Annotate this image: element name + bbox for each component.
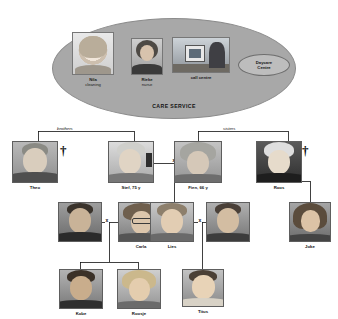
- kobe-photo: [59, 269, 103, 309]
- person-node-lies-partner[interactable]: [206, 202, 250, 244]
- person-node-theo[interactable]: Theo: [12, 141, 58, 190]
- face-shape: [129, 278, 150, 301]
- lies-name: Lies: [150, 244, 194, 249]
- daycare-centre-label: Daycare Centre: [256, 60, 272, 70]
- body-shape: [117, 301, 161, 308]
- face-shape: [301, 210, 320, 232]
- nila-role: cleaning: [72, 82, 114, 87]
- shoulders-shape: [75, 65, 111, 74]
- lies-photo: [150, 202, 194, 242]
- union-mark-carla: x: [105, 218, 109, 223]
- joke-photo: [289, 202, 331, 242]
- care-member-rieke[interactable]: Rieke nurse: [131, 38, 163, 87]
- person-node-joke[interactable]: Joke: [289, 202, 331, 249]
- daycare-line-2: Centre: [257, 65, 270, 70]
- deceased-cross-icon-theo: †: [60, 144, 67, 157]
- face-shape: [217, 208, 239, 233]
- rieke-name: Rieke: [141, 77, 152, 82]
- body-shape: [150, 233, 194, 241]
- body-shape: [256, 173, 302, 182]
- lies-partner-photo: [206, 202, 250, 242]
- daycare-centre-node[interactable]: Daycare Centre: [238, 54, 290, 76]
- fien-photo: [174, 141, 222, 183]
- face-shape: [187, 151, 209, 175]
- care-member-nila[interactable]: Nila cleaning: [72, 32, 114, 87]
- call-centre-photo: [172, 37, 230, 73]
- face-shape: [69, 208, 91, 233]
- roos-photo: [256, 141, 302, 183]
- person-node-lies[interactable]: Lies: [150, 202, 194, 249]
- face-shape: [268, 150, 290, 174]
- nila-name: Nila: [89, 77, 97, 82]
- person-node-carla-partner[interactable]: [58, 202, 102, 244]
- body-shape: [108, 173, 154, 182]
- body-shape: [182, 298, 224, 306]
- stef-name: Stef, 75 y: [108, 185, 154, 190]
- monitor-icon: [185, 45, 205, 62]
- care-service-title: CARE SERVICE: [53, 103, 295, 109]
- theo-name: Theo: [12, 185, 58, 190]
- operator-shape: [209, 42, 225, 68]
- face-shape: [23, 148, 47, 174]
- body-shape: [289, 234, 331, 241]
- relation-label-brothers: brothers: [56, 126, 74, 131]
- relation-label-sisters: sisters: [222, 126, 236, 131]
- body-shape: [59, 300, 103, 308]
- rieke-photo: [131, 38, 163, 75]
- person-node-roosje[interactable]: Roosje: [117, 269, 161, 316]
- face-shape: [161, 209, 183, 234]
- deceased-cross-icon-roos: †: [302, 144, 309, 157]
- stef-photo: [108, 141, 154, 183]
- person-node-stef[interactable]: Stef, 75 y: [108, 141, 154, 190]
- roosje-name: Roosje: [117, 311, 161, 316]
- rieke-role: nurse: [131, 82, 163, 87]
- carla-partner-photo: [58, 202, 102, 242]
- roos-name: Roos: [256, 185, 302, 190]
- person-node-titus[interactable]: Titus: [182, 269, 224, 314]
- roosje-photo: [117, 269, 161, 309]
- person-node-kobe[interactable]: Kobe: [59, 269, 103, 316]
- union-mark-lies: x: [198, 218, 202, 223]
- call-centre-caption: call centre: [172, 75, 230, 80]
- body-shape: [12, 172, 58, 182]
- body-shape: [174, 174, 222, 182]
- fien-name: Fien, 66 y: [174, 185, 222, 190]
- body-shape: [58, 232, 102, 241]
- kobe-name: Kobe: [59, 311, 103, 316]
- face-shape: [192, 275, 215, 299]
- face-shape: [119, 149, 141, 174]
- call-centre-name: call centre: [191, 75, 212, 80]
- person-node-fien[interactable]: Fien, 66 y: [174, 141, 222, 190]
- face-shape: [70, 276, 92, 300]
- titus-name: Titus: [182, 309, 224, 314]
- person-node-roos[interactable]: Roos: [256, 141, 302, 190]
- phone-shape: [146, 153, 152, 167]
- body-shape: [206, 233, 250, 241]
- shoulders-shape: [132, 64, 162, 74]
- genogram: brothers sisters Theo † Stef, 75 y x Fie…: [0, 122, 338, 319]
- care-member-call-centre[interactable]: call centre: [172, 37, 230, 80]
- nila-photo: [72, 32, 114, 75]
- joke-name: Joke: [289, 244, 331, 249]
- hair-shape: [79, 36, 107, 58]
- face-shape: [140, 45, 154, 61]
- rieke-caption: Rieke nurse: [131, 77, 163, 87]
- theo-photo: [12, 141, 58, 183]
- nila-caption: Nila cleaning: [72, 77, 114, 87]
- titus-photo: [182, 269, 224, 307]
